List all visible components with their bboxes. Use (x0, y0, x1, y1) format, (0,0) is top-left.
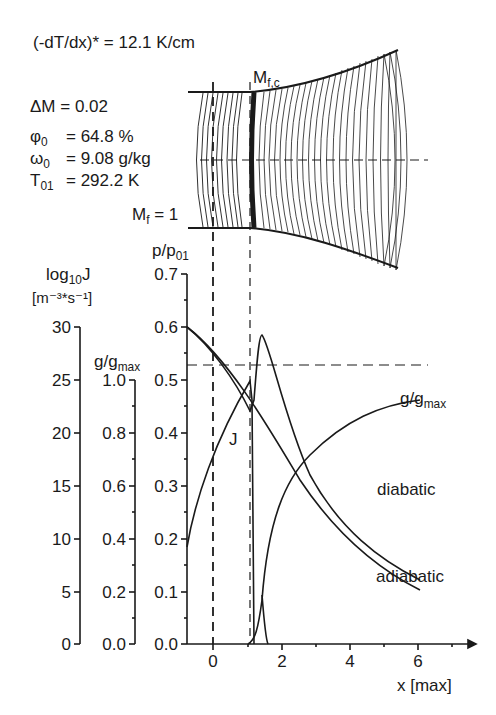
svg-text:0.3: 0.3 (154, 477, 178, 496)
svg-text:25: 25 (52, 371, 71, 390)
svg-text:30: 30 (52, 318, 71, 337)
svg-text:0.6: 0.6 (102, 477, 126, 496)
svg-text:0.4: 0.4 (154, 424, 178, 443)
svg-text:20: 20 (52, 424, 71, 443)
svg-text:5: 5 (62, 583, 71, 602)
svg-text:10: 10 (52, 530, 71, 549)
svg-text:0.6: 0.6 (154, 318, 178, 337)
axes (74, 274, 476, 650)
curve-g-tail (262, 595, 268, 644)
svg-text:0.4: 0.4 (102, 530, 126, 549)
x-tick-labels: 02 46 (208, 652, 422, 671)
svg-text:0.7: 0.7 (154, 265, 178, 284)
tick-labels: 0.70.6 0.50.4 0.30.2 0.10.0 1.00.8 0.60.… (52, 265, 178, 654)
svg-text:0.5: 0.5 (154, 371, 178, 390)
svg-text:0.2: 0.2 (102, 583, 126, 602)
nozzle-top-wall (188, 50, 398, 92)
svg-text:1.0: 1.0 (102, 371, 126, 390)
svg-text:4: 4 (345, 652, 354, 671)
curves (187, 327, 420, 644)
svg-text:0: 0 (208, 652, 217, 671)
svg-text:0.1: 0.1 (154, 583, 178, 602)
chart-canvas: 0.70.6 0.50.4 0.30.2 0.10.0 1.00.8 0.60.… (0, 0, 496, 715)
svg-text:0.8: 0.8 (102, 424, 126, 443)
condensation-shock (252, 92, 255, 228)
svg-text:2: 2 (277, 652, 286, 671)
svg-text:0.0: 0.0 (154, 635, 178, 654)
svg-text:6: 6 (413, 652, 422, 671)
svg-text:0.2: 0.2 (154, 530, 178, 549)
nozzle-bottom-wall (188, 228, 398, 268)
svg-text:0: 0 (62, 635, 71, 654)
svg-text:0.0: 0.0 (102, 635, 126, 654)
curve-j (187, 381, 254, 644)
nozzle-schematic (188, 50, 428, 270)
svg-text:15: 15 (52, 477, 71, 496)
